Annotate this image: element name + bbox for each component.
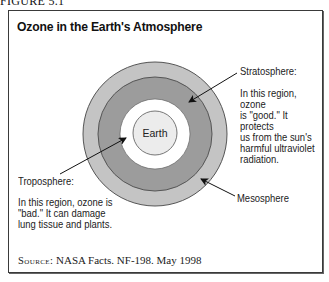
stratosphere-label: Stratosphere: [240,66,297,77]
source-prefix: Source: [18,255,53,266]
mesosphere-label: Mesosphere [237,193,289,204]
source-citation: Source: NASA Facts. NF-198. May 1998 [18,254,201,266]
source-text: NASA Facts. NF-198. May 1998 [53,254,201,266]
earth-label: Earth [142,127,167,139]
mesosphere-arrow [201,179,235,196]
troposphere-description: In this region, ozone is "bad." It can d… [18,197,113,230]
stratosphere-description: In this region, ozone is "good." It prot… [240,88,320,165]
troposphere-label: Troposphere: [18,176,74,187]
